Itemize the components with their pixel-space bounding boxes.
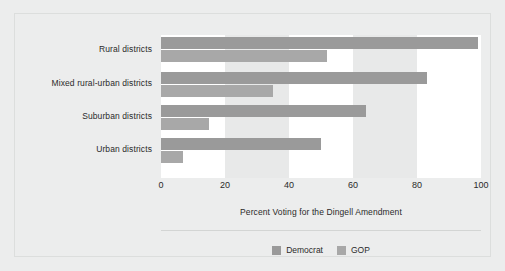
legend-label-democrat: Democrat [286, 245, 323, 255]
x-axis-ticks: 0 20 40 60 80 100 [161, 178, 481, 194]
category-label-urban: Urban districts [96, 144, 152, 154]
category-label-rural: Rural districts [99, 44, 152, 54]
bar-rows [161, 35, 481, 178]
legend-item-democrat: Democrat [272, 245, 323, 255]
legend-separator [161, 230, 481, 231]
legend-item-gop: GOP [337, 245, 370, 255]
category-label-mixed-rural-urban: Mixed rural-urban districts [52, 78, 152, 88]
x-tick-80: 80 [412, 180, 422, 190]
x-tick-40: 40 [284, 180, 294, 190]
chart-figure-frame: Rural districts Mixed rural-urban distri… [14, 13, 491, 257]
chart-legend: Democrat GOP [161, 243, 481, 257]
bar-rural-democrat [161, 37, 478, 49]
bar-group-rural [161, 37, 481, 67]
bar-group-mixed-rural-urban [161, 72, 481, 102]
bar-rural-gop [161, 50, 327, 62]
legend-swatch-democrat [272, 246, 281, 255]
legend-swatch-gop [337, 246, 346, 255]
bar-suburban-gop [161, 118, 209, 130]
category-axis-labels: Rural districts Mixed rural-urban distri… [29, 35, 157, 178]
category-label-suburban: Suburban districts [82, 111, 152, 121]
x-tick-0: 0 [158, 180, 163, 190]
bar-suburban-democrat [161, 105, 366, 117]
bar-mixed-rural-urban-democrat [161, 72, 427, 84]
bar-urban-gop [161, 151, 183, 163]
bar-group-suburban [161, 105, 481, 135]
bar-group-urban [161, 138, 481, 168]
bar-urban-democrat [161, 138, 321, 150]
bar-mixed-rural-urban-gop [161, 85, 273, 97]
x-tick-20: 20 [220, 180, 230, 190]
x-tick-100: 100 [473, 180, 488, 190]
plot-area [161, 35, 481, 178]
legend-label-gop: GOP [351, 245, 370, 255]
x-axis-title: Percent Voting for the Dingell Amendment [161, 207, 481, 217]
x-tick-60: 60 [348, 180, 358, 190]
